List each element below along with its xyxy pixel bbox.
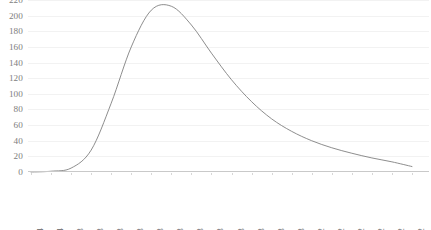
x-axis-tick-mark bbox=[171, 173, 172, 175]
x-axis-tick-mark bbox=[412, 173, 413, 175]
y-axis-tick-label: 180 bbox=[9, 26, 23, 36]
x-axis-tick-label: 1,261E-02 bbox=[376, 228, 386, 230]
x-axis-tick-mark bbox=[352, 173, 353, 175]
x-axis-line bbox=[28, 171, 429, 172]
x-axis-tick-mark bbox=[91, 173, 92, 175]
x-axis-tick-mark bbox=[111, 173, 112, 175]
x-axis-tick-label: 1,334E-02 bbox=[396, 228, 406, 230]
y-axis-tick-label: 80 bbox=[14, 104, 23, 114]
y-axis-tick-label: 220 bbox=[9, 0, 23, 5]
y-axis-tick-label: 160 bbox=[9, 42, 23, 52]
x-axis-tick-mark bbox=[191, 173, 192, 175]
x-axis-tick-mark bbox=[211, 173, 212, 175]
x-axis-tick-label: 1,042E-02 bbox=[316, 228, 326, 230]
x-axis-tick-mark bbox=[392, 173, 393, 175]
x-axis-tick-label: 1,407E-02 bbox=[416, 228, 426, 230]
chart-container: 020406080100120140160180200220 2,186E-04… bbox=[0, 0, 431, 230]
x-axis-tick-label: 1,676E-03 bbox=[75, 228, 85, 230]
x-axis-tick-mark bbox=[252, 173, 253, 175]
x-axis-tick-mark bbox=[272, 173, 273, 175]
x-axis-tick-mark bbox=[151, 173, 152, 175]
y-axis-tick-label: 200 bbox=[9, 11, 23, 21]
x-axis-tick-label: 6,049E-03 bbox=[195, 228, 205, 230]
x-axis-tick-label: 1,188E-02 bbox=[356, 228, 366, 230]
x-axis-tick-label: 4,592E-03 bbox=[155, 228, 165, 230]
plot-area bbox=[28, 0, 429, 172]
x-axis-tick-label: 8,236E-03 bbox=[256, 228, 266, 230]
x-axis-tick-label: 5,320E-03 bbox=[175, 228, 185, 230]
line-series-distribution bbox=[28, 0, 429, 172]
y-axis-tick-label: 40 bbox=[14, 136, 23, 146]
x-axis-tick-label: 3,863E-03 bbox=[135, 228, 145, 230]
x-axis-tick-label: 9,693E-03 bbox=[296, 228, 306, 230]
x-axis-tick-mark bbox=[71, 173, 72, 175]
y-axis: 020406080100120140160180200220 bbox=[0, 0, 26, 175]
x-axis-tick-mark bbox=[51, 173, 52, 175]
x-axis-tick-mark bbox=[232, 173, 233, 175]
x-axis-tick-label: 6,778E-03 bbox=[215, 228, 225, 230]
x-axis-tick-mark bbox=[131, 173, 132, 175]
x-axis-tick-mark bbox=[372, 173, 373, 175]
x-axis-tick-label: 8,964E-03 bbox=[276, 228, 286, 230]
x-axis-tick-label: 2,405E-03 bbox=[95, 228, 105, 230]
y-axis-tick-label: 100 bbox=[9, 89, 23, 99]
y-axis-tick-label: 20 bbox=[14, 151, 23, 161]
curve-path bbox=[31, 5, 412, 172]
x-axis-tick-mark bbox=[31, 173, 32, 175]
x-axis: 2,186E-049,475E-041,676E-032,405E-033,13… bbox=[28, 173, 429, 230]
y-axis-tick-label: 120 bbox=[9, 73, 23, 83]
x-axis-tick-label: 1,115E-02 bbox=[336, 228, 346, 230]
y-axis-tick-label: 60 bbox=[14, 120, 23, 130]
y-axis-tick-label: 140 bbox=[9, 58, 23, 68]
x-axis-tick-mark bbox=[292, 173, 293, 175]
x-axis-tick-label: 3,134E-03 bbox=[115, 228, 125, 230]
x-axis-tick-label: 7,507E-03 bbox=[236, 228, 246, 230]
x-axis-tick-label: 2,186E-04 bbox=[35, 228, 45, 230]
x-axis-tick-label: 9,475E-04 bbox=[55, 228, 65, 230]
x-axis-tick-mark bbox=[312, 173, 313, 175]
x-axis-tick-mark bbox=[332, 173, 333, 175]
y-axis-tick-label: 0 bbox=[18, 167, 23, 177]
